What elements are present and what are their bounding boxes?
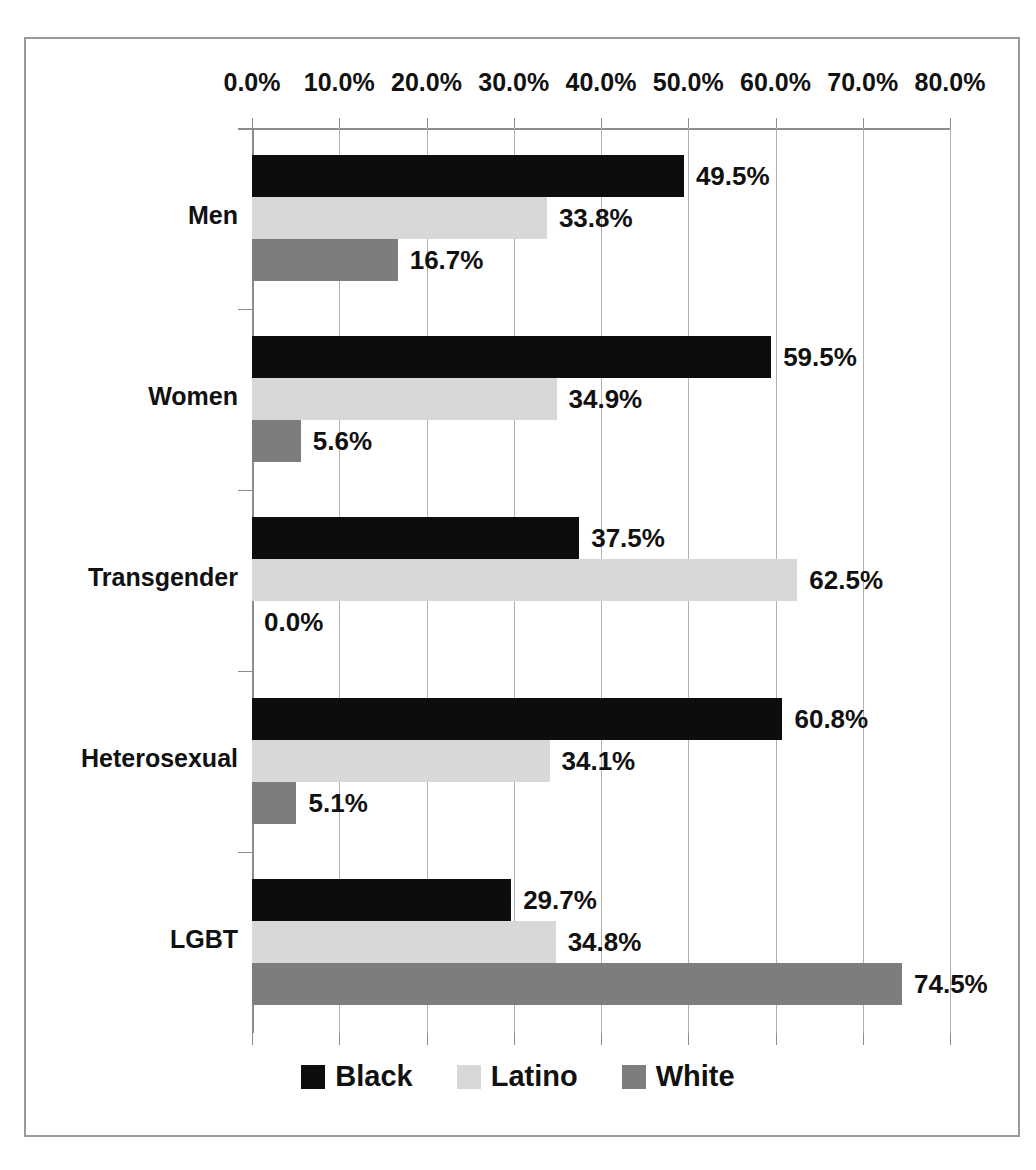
bar[interactable] [252,963,902,1005]
x-tickmark-top-4 [601,118,602,128]
x-tickmark-bottom-4 [601,1033,602,1045]
bar-value-label: 49.5% [696,155,770,197]
category-label-heterosexual: Heterosexual [8,744,238,773]
x-tick-label-6: 60.0% [740,68,811,97]
category-tickmark-3 [238,671,252,672]
bar-value-label: 16.7% [410,239,484,281]
bar[interactable] [252,517,579,559]
category-tickmark-1 [238,309,252,310]
x-tickmark-top-7 [863,118,864,128]
x-tickmark-top-0 [252,118,253,128]
bar-value-label: 5.6% [313,420,372,462]
bar[interactable] [252,378,557,420]
x-tick-label-0: 0.0% [224,68,281,97]
x-tickmark-bottom-3 [514,1033,515,1045]
x-tickmark-bottom-1 [339,1033,340,1045]
legend-item-latino[interactable]: Latino [457,1060,578,1093]
category-tickmark-2 [238,490,252,491]
bar-value-label: 34.8% [568,921,642,963]
bar[interactable] [252,740,550,782]
chart-title-cropped [0,0,1036,6]
x-tickmark-bottom-8 [950,1033,951,1045]
bar-value-label: 37.5% [591,517,665,559]
x-tickmark-bottom-7 [863,1033,864,1045]
chart-legend: BlackLatinoWhite [0,1060,1036,1093]
bar-value-label: 59.5% [783,336,857,378]
legend-label: Black [335,1060,412,1093]
bar-value-label: 62.5% [809,559,883,601]
bar-value-label: 5.1% [308,782,367,824]
bar-value-label: 34.1% [562,740,636,782]
category-tickmark-4 [238,852,252,853]
gridline-8 [950,128,951,1033]
legend-swatch-icon [622,1065,646,1089]
x-tickmark-bottom-0 [252,1033,253,1045]
bar[interactable] [252,197,547,239]
bar-value-label: 60.8% [794,698,868,740]
legend-label: White [656,1060,735,1093]
x-axis-tick-labels: 0.0%10.0%20.0%30.0%40.0%50.0%60.0%70.0%8… [0,68,1036,104]
category-label-lgbt: LGBT [8,925,238,954]
x-tickmark-bottom-2 [427,1033,428,1045]
category-axis-labels: MenWomenTransgenderHeterosexualLGBT [0,128,238,1033]
bar-value-label: 29.7% [523,879,597,921]
bar-value-label: 33.8% [559,197,633,239]
category-label-men: Men [8,201,238,230]
bar[interactable] [252,420,301,462]
legend-label: Latino [491,1060,578,1093]
x-tickmark-top-3 [514,118,515,128]
x-tickmark-top-8 [950,118,951,128]
x-tick-label-1: 10.0% [304,68,375,97]
legend-swatch-icon [457,1065,481,1089]
legend-swatch-icon [301,1065,325,1089]
x-tick-label-7: 70.0% [827,68,898,97]
x-tickmark-bottom-5 [688,1033,689,1045]
x-tick-label-4: 40.0% [566,68,637,97]
x-tickmark-top-6 [776,118,777,128]
legend-item-white[interactable]: White [622,1060,735,1093]
bar[interactable] [252,559,797,601]
bar[interactable] [252,782,296,824]
x-tick-label-2: 20.0% [391,68,462,97]
x-tickmark-top-2 [427,118,428,128]
x-tickmark-top-5 [688,118,689,128]
bar[interactable] [252,155,684,197]
legend-item-black[interactable]: Black [301,1060,412,1093]
bar-chart: 0.0%10.0%20.0%30.0%40.0%50.0%60.0%70.0%8… [0,0,1036,1170]
bar[interactable] [252,879,511,921]
x-tick-label-5: 50.0% [653,68,724,97]
category-label-women: Women [8,382,238,411]
bar[interactable] [252,239,398,281]
x-tick-label-8: 80.0% [915,68,986,97]
bar-value-label: 74.5% [914,963,988,1005]
plot-area: 49.5%33.8%16.7%59.5%34.9%5.6%37.5%62.5%0… [252,128,950,1033]
bar-value-label: 0.0% [264,601,323,643]
bar[interactable] [252,698,782,740]
category-label-transgender: Transgender [8,563,238,592]
x-axis-line [238,128,950,130]
bar-value-label: 34.9% [569,378,643,420]
x-tickmark-bottom-6 [776,1033,777,1045]
bar[interactable] [252,921,556,963]
x-tickmark-top-1 [339,118,340,128]
x-tick-label-3: 30.0% [478,68,549,97]
bar[interactable] [252,336,771,378]
